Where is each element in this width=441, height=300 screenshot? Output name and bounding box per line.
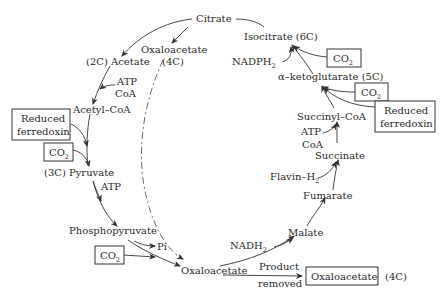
node-coa-right: CoA [302,139,324,150]
node-reduced-ferredoxin-left-2: ferredoxin [17,126,70,137]
arrow-citrate-to-oxaloacetate [172,27,188,43]
arrow-nadph [282,47,291,62]
arrow-to-pi [134,241,155,246]
node-citrate: Citrate [196,13,232,24]
arrow-atp-coa-right [323,124,336,133]
node-pyruvate: (3C) Pyruvate [44,167,114,178]
node-succinyl-coa: Succinyl–CoA [297,111,367,122]
node-atp-pyruvate: ATP [100,181,121,192]
arrow-atp-coa-left [100,85,115,89]
node-oxaloacetate-top: Oxaloacetate [141,44,207,55]
label-oxaloacetate-top-carbons: (4C) [162,56,184,67]
node-reduced-ferredoxin-right-1: Reduced [384,105,429,116]
arrow-phosphopyruvate-to-oxaloacetate [128,240,180,266]
arrow-acetylcoa-to-pyruvate [87,114,90,166]
node-isocitrate: Isocitrate (6C) [244,31,318,42]
label-removed: removed [258,278,303,289]
node-pi: Pi [157,241,167,252]
node-acetyl-coa: Acetyl–CoA [72,104,131,115]
arrow-co2-bottom [123,255,155,257]
label-oxaloacetate-product-carbons: (4C) [385,271,407,282]
node-succinate: Succinate [315,150,365,161]
arrow-akg-to-isocitrate [292,45,313,74]
arrow-succinylcoa-to-akg [322,86,334,108]
node-fumarate: Fumarate [303,190,353,201]
node-atp-left: ATP [116,76,137,87]
node-acetate: (2C) Acetate [86,56,150,67]
node-phosphopyruvate: Phosphopyruvate [69,225,157,236]
arrow-flavin [318,162,336,178]
node-nadph: NADPH2 [232,56,276,70]
node-oxaloacetate-product: Oxaloacetate [311,271,377,282]
node-atp-right: ATP [300,126,321,137]
arrow-fumarate-to-succinate [333,160,338,190]
arrow-acetate-to-acetylcoa [93,66,110,104]
reverse-tca-cycle-diagram: Citrate Isocitrate (6C) NADPH2 CO2 α–ket… [0,0,441,300]
node-nadh2: NADH2 [230,240,267,254]
node-reduced-ferredoxin-right-2: ferredoxin [380,118,433,129]
node-coa-left: CoA [115,88,137,99]
node-alpha-ketoglutarate: α–ketoglutarate (5C) [278,71,384,82]
node-flavin-h2: Flavin–H2 [270,171,319,185]
label-product: Product [259,261,299,272]
node-malate: Malate [288,227,323,238]
arrow-co2-top-right [294,46,327,57]
arrow-isocitrate-to-citrate [236,19,264,27]
arrow-atp-left [93,181,101,201]
arrow-malate-to-fumarate [307,198,325,226]
node-oxaloacetate-bottom: Oxaloacetate [181,265,247,276]
node-reduced-ferredoxin-left-1: Reduced [21,113,66,124]
